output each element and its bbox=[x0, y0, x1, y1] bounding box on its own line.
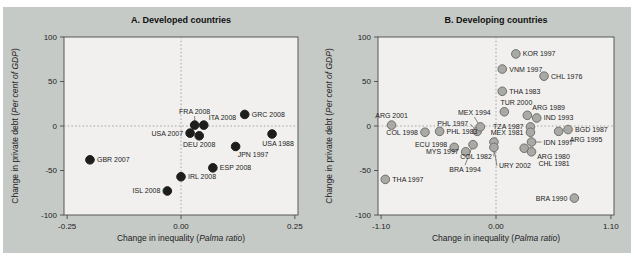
point-label: ARG 2001 bbox=[375, 112, 408, 119]
point-label: THA 1983 bbox=[509, 88, 540, 95]
point-label: COL 1982 bbox=[460, 153, 492, 160]
data-point bbox=[231, 142, 240, 151]
point-label: MYS 1997 bbox=[426, 148, 459, 155]
point-label: USA 2007 bbox=[152, 130, 184, 137]
data-point bbox=[195, 131, 204, 140]
x-tick-label: 1.10 bbox=[603, 222, 619, 231]
data-point bbox=[527, 138, 536, 147]
point-label: BGD 1987 bbox=[575, 126, 608, 133]
data-point bbox=[163, 187, 172, 196]
data-point bbox=[532, 114, 541, 123]
data-point bbox=[523, 111, 532, 120]
y-tick-label: -100 bbox=[41, 211, 58, 220]
point-label: TUR 2000 bbox=[500, 99, 532, 106]
point-label: CHL 1976 bbox=[551, 73, 582, 80]
data-point bbox=[500, 107, 509, 116]
point-label: IND 1993 bbox=[544, 114, 574, 121]
point-label: IRL 2008 bbox=[188, 173, 216, 180]
point-label: CHL 1981 bbox=[539, 160, 570, 167]
data-point bbox=[177, 172, 186, 181]
point-label: VNM 1997 bbox=[509, 66, 542, 73]
y-tick-label: -100 bbox=[355, 211, 372, 220]
data-point bbox=[570, 194, 579, 203]
point-label: ARG 1989 bbox=[532, 104, 565, 111]
data-point bbox=[186, 129, 195, 138]
figure-screenshot: 100500-50-100-0.250.000.25GBR 2007ISL 20… bbox=[0, 0, 634, 267]
x-tick-label: 0.00 bbox=[488, 222, 504, 231]
data-point bbox=[540, 72, 549, 81]
point-label: COL 1998 bbox=[386, 129, 418, 136]
point-label: PHL 1997 bbox=[437, 120, 468, 127]
x-axis-label: Change in inequality (Palma ratio) bbox=[432, 233, 560, 243]
data-point bbox=[86, 156, 95, 165]
data-point bbox=[554, 127, 563, 136]
point-label: MEX 1981 bbox=[491, 129, 524, 136]
data-point bbox=[199, 121, 208, 130]
data-point bbox=[527, 148, 536, 157]
data-point bbox=[512, 50, 521, 59]
point-label: FRA 2008 bbox=[179, 108, 210, 115]
data-point bbox=[209, 164, 218, 173]
point-label: IDN 1997 bbox=[544, 139, 574, 146]
data-point bbox=[490, 143, 499, 152]
point-label: GBR 2007 bbox=[97, 156, 130, 163]
figure-background: 100500-50-100-0.250.000.25GBR 2007ISL 20… bbox=[3, 7, 631, 253]
y-axis-label: Change in private debt (Per cent of GDP) bbox=[324, 48, 334, 204]
point-label: BRA 1990 bbox=[536, 195, 568, 202]
panel-title: B. Developing countries bbox=[444, 15, 547, 25]
y-tick-label: -50 bbox=[45, 166, 57, 175]
y-tick-label: -50 bbox=[359, 166, 371, 175]
data-point bbox=[526, 128, 535, 137]
panel-developed: 100500-50-100-0.250.000.25GBR 2007ISL 20… bbox=[4, 7, 314, 257]
panel-developing: 100500-50-100-1.100.001.10KOR 1997VNM 19… bbox=[318, 7, 628, 257]
x-tick-label: 0.00 bbox=[173, 222, 189, 231]
point-label: URY 2002 bbox=[499, 162, 531, 169]
x-tick-label: -0.25 bbox=[58, 222, 77, 231]
point-label: KOR 1997 bbox=[523, 50, 556, 57]
point-label: USA 1988 bbox=[262, 140, 294, 147]
y-axis-label: Change in private debt (Per cent of GDP) bbox=[10, 48, 20, 204]
data-point bbox=[240, 110, 249, 119]
point-label: PHL 1983 bbox=[447, 128, 478, 135]
point-label: MEX 1994 bbox=[458, 109, 491, 116]
x-tick-label: 0.25 bbox=[287, 222, 303, 231]
data-point bbox=[469, 140, 478, 149]
point-label: GRC 2008 bbox=[252, 111, 285, 118]
data-point bbox=[498, 87, 507, 96]
x-axis-label: Change in inequality (Palma ratio) bbox=[117, 233, 245, 243]
point-label: ARG 1995 bbox=[570, 136, 603, 143]
data-point bbox=[381, 175, 390, 184]
data-point bbox=[498, 65, 507, 74]
data-point bbox=[435, 127, 444, 136]
y-tick-label: 100 bbox=[358, 33, 372, 42]
point-label: DEU 2008 bbox=[183, 141, 215, 148]
y-tick-label: 0 bbox=[53, 122, 58, 131]
panel-title: A. Developed countries bbox=[131, 15, 231, 25]
data-point bbox=[421, 128, 430, 137]
chart-developing: 100500-50-100-1.100.001.10KOR 1997VNM 19… bbox=[318, 7, 628, 253]
y-tick-label: 100 bbox=[44, 33, 58, 42]
point-label: THA 1997 bbox=[392, 176, 423, 183]
point-label: ESP 2008 bbox=[220, 164, 252, 171]
y-tick-label: 50 bbox=[362, 77, 371, 86]
point-label: ECU 1998 bbox=[415, 141, 447, 148]
point-label: JPN 1997 bbox=[238, 151, 269, 158]
data-point bbox=[190, 121, 199, 130]
data-point bbox=[564, 125, 573, 134]
chart-developed: 100500-50-100-0.250.000.25GBR 2007ISL 20… bbox=[4, 7, 314, 253]
point-label: BRA 1994 bbox=[449, 166, 481, 173]
y-tick-label: 0 bbox=[367, 122, 372, 131]
point-label: ISL 2008 bbox=[133, 187, 161, 194]
point-label: ITA 2008 bbox=[209, 114, 237, 121]
y-tick-label: 50 bbox=[48, 77, 57, 86]
data-point bbox=[268, 130, 277, 139]
x-tick-label: -1.10 bbox=[372, 222, 391, 231]
